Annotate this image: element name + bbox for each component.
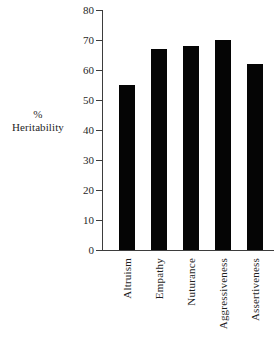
bar-chart-figure: % Heritability 01020304050607080 Altruis… <box>0 0 276 338</box>
x-axis-label-aggressiveness: Aggressiveness <box>215 258 231 336</box>
x-axis-line <box>102 250 274 251</box>
x-axis-label-text: Aggressiveness <box>218 258 229 329</box>
bar-nuturance[interactable] <box>183 46 199 250</box>
y-axis-tick <box>96 190 103 191</box>
y-axis-tick-label: 30 <box>34 155 94 166</box>
y-axis-tick <box>96 130 103 131</box>
bar-altruism[interactable] <box>119 85 135 250</box>
x-axis-label-text: Nuturance <box>186 258 197 306</box>
x-axis-label-assertiveness: Assertiveness <box>247 258 263 336</box>
y-axis-tick <box>96 10 103 11</box>
y-axis-tick <box>96 40 103 41</box>
y-axis-tick-label: 50 <box>34 95 94 106</box>
y-axis-line <box>102 11 103 251</box>
y-axis-tick <box>96 220 103 221</box>
y-axis-tick-label: 20 <box>34 185 94 196</box>
x-axis-label-text: Altruism <box>122 258 133 299</box>
bar-aggressiveness[interactable] <box>215 40 231 250</box>
plot-area: 01020304050607080 AltruismEmpathyNuturan… <box>0 0 276 338</box>
y-axis-tick-label: 60 <box>34 65 94 76</box>
y-axis-tick-label: 70 <box>34 35 94 46</box>
y-axis-tick <box>96 160 103 161</box>
x-axis-label-text: Empathy <box>154 258 165 299</box>
bar-empathy[interactable] <box>151 49 167 250</box>
x-axis-label-nuturance: Nuturance <box>183 258 199 336</box>
bar-assertiveness[interactable] <box>247 64 263 250</box>
y-axis-tick-label: 10 <box>34 215 94 226</box>
y-axis-tick-label: 40 <box>34 125 94 136</box>
y-axis-tick <box>96 100 103 101</box>
x-axis-label-text: Assertiveness <box>250 258 261 321</box>
x-axis-label-empathy: Empathy <box>151 258 167 336</box>
y-axis-tick-label: 0 <box>34 245 94 256</box>
y-axis-tick <box>96 250 103 251</box>
x-axis-label-altruism: Altruism <box>119 258 135 336</box>
y-axis-tick-label: 80 <box>34 5 94 16</box>
y-axis-tick <box>96 70 103 71</box>
